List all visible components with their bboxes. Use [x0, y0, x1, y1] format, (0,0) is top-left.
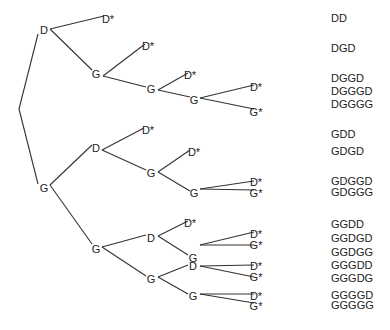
tree-node-dd: D* — [102, 13, 115, 25]
outcome-sequence-label: GGGGG — [331, 300, 374, 311]
tree-edge — [158, 172, 190, 191]
outcome-sequence-label: DD — [331, 13, 347, 24]
tree-node-gggdg: G* — [250, 271, 264, 283]
tree-edge — [158, 90, 190, 97]
tree-node-gd: D — [92, 142, 100, 154]
tree-edge — [50, 29, 92, 70]
tree-edge — [158, 236, 188, 255]
outcome-sequence-label: GGGDD — [331, 260, 373, 271]
tree-node-dgg: G — [147, 83, 156, 95]
outcome-sequence-label: DGGGD — [331, 86, 373, 97]
tree-edge — [200, 265, 254, 266]
tree-node-ggdgg: G* — [250, 239, 264, 251]
tree-node-ggggg: G* — [250, 300, 264, 312]
tree-edge — [50, 145, 92, 185]
tree-edge — [158, 265, 188, 277]
tree-node-ggd: D — [147, 232, 155, 244]
tree-edge — [158, 150, 190, 172]
tree-edge — [19, 34, 38, 109]
tree-node-gdgd: D* — [188, 146, 201, 158]
tree-edge — [200, 232, 254, 245]
tree-node-gdggg: G* — [250, 187, 264, 199]
tree-node-gdd: D* — [142, 124, 155, 136]
tree-edge — [102, 235, 146, 247]
tree-edge — [50, 185, 92, 244]
outcome-sequence-label: GGDGD — [331, 233, 373, 244]
outcome-sequence-label: DGGGG — [331, 99, 373, 110]
tree-edge — [200, 189, 254, 190]
outcome-sequence-label: DGD — [331, 43, 355, 54]
tree-node-ggdd: D* — [184, 217, 197, 229]
tree-edge — [103, 76, 146, 87]
tree-edge — [200, 266, 254, 277]
tree-node-gdg: G — [147, 167, 156, 179]
tree-edge — [158, 277, 188, 294]
tree-node-ggg: G — [147, 273, 156, 285]
tree-node-dggd: D* — [184, 69, 197, 81]
game-tree-diagram: DD*GD*GD*GD*G*GDD*GD*GD*G*GDD*GD*G*GDD*G… — [0, 0, 390, 330]
tree-edge — [102, 247, 146, 276]
tree-node-g: G — [40, 182, 49, 194]
tree-edge — [200, 294, 254, 303]
outcome-sequence-label: GDD — [331, 129, 355, 140]
tree-edges — [19, 16, 254, 303]
tree-edge — [19, 109, 38, 184]
tree-edge — [50, 16, 104, 29]
tree-node-dgggg: G* — [250, 106, 264, 118]
tree-node-dgggd: D* — [250, 81, 263, 93]
tree-node-d: D — [40, 24, 48, 36]
tree-edge — [200, 181, 254, 189]
tree-node-dgd: D* — [142, 40, 155, 52]
tree-node-gdgg: G — [190, 187, 199, 199]
outcome-sequence-label: GGGDG — [331, 273, 373, 284]
tree-edge — [103, 44, 145, 76]
outcome-sequence-label: GDGD — [331, 146, 364, 157]
tree-node-gggg: G — [189, 290, 198, 302]
outcome-sequence-label: GGDD — [331, 219, 364, 230]
tree-edge — [200, 98, 254, 109]
tree-node-gggd: D — [189, 260, 197, 272]
tree-node-gg: G — [92, 243, 101, 255]
tree-node-dggg: G — [190, 94, 199, 106]
tree-edge — [200, 85, 254, 98]
tree-node-dg: G — [92, 68, 101, 80]
outcome-sequence-label: GGDGG — [331, 247, 373, 258]
tree-edge — [102, 150, 146, 170]
tree-edge — [102, 128, 144, 150]
outcome-sequence-label: DGGD — [331, 73, 364, 84]
outcome-sequence-label: GDGGG — [331, 187, 373, 198]
